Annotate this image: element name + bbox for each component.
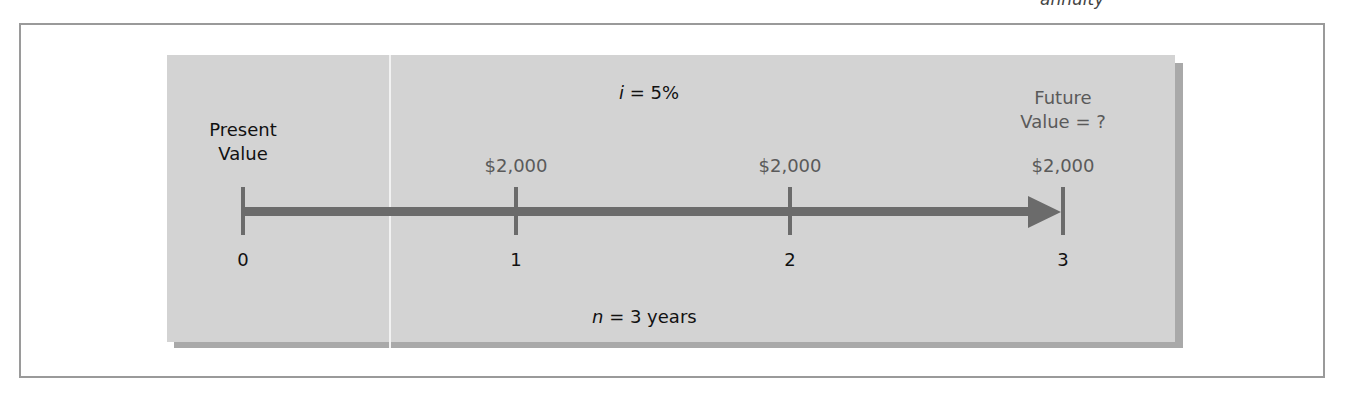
- cash-flow-amount-3: $2,000: [1032, 153, 1095, 178]
- cash-flow-amount-2: $2,000: [759, 153, 822, 178]
- cutoff-heading-text: annuity: [1040, 0, 1104, 9]
- tick-3: [1061, 187, 1065, 235]
- panel-seam: [389, 55, 391, 348]
- tick-1: [514, 187, 518, 235]
- period-label-1: 1: [510, 247, 521, 272]
- interest-rate-label: i = 5%: [619, 80, 679, 105]
- timeline-line: [243, 207, 1033, 216]
- period-label-2: 2: [784, 247, 795, 272]
- interest-value: = 5%: [624, 82, 679, 103]
- cash-flow-amount-1: $2,000: [485, 153, 548, 178]
- periods-value: = 3 years: [603, 306, 696, 327]
- period-label-0: 0: [237, 247, 248, 272]
- present-value-line1: Present: [209, 118, 277, 142]
- future-value-label: Future Value = ?: [1020, 86, 1106, 134]
- present-value-line2: Value: [209, 142, 277, 166]
- arrow-right-icon: [1028, 196, 1061, 228]
- future-value-line2: Value = ?: [1020, 110, 1106, 134]
- tick-2: [788, 187, 792, 235]
- tick-0: [241, 187, 245, 235]
- period-label-3: 3: [1057, 247, 1068, 272]
- future-value-line1: Future: [1020, 86, 1106, 110]
- periods-var: n: [592, 306, 603, 327]
- present-value-label: Present Value: [209, 118, 277, 166]
- periods-label: n = 3 years: [592, 304, 697, 329]
